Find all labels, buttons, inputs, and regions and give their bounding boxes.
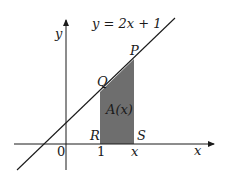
point-s-label: S <box>137 128 146 143</box>
diagram-canvas: y = 2x + 1 y x 0 1 x P Q R S A(x) <box>0 0 230 176</box>
point-r-label: R <box>89 128 100 143</box>
line-y-2x-plus-1 <box>17 18 175 170</box>
equation-label: y = 2x + 1 <box>91 16 162 31</box>
point-q-label: Q <box>97 74 108 89</box>
y-axis-label: y <box>54 26 63 41</box>
tick-x-label: x <box>131 144 139 159</box>
origin-label: 0 <box>57 144 65 159</box>
area-label: A(x) <box>105 102 133 117</box>
x-axis-label: x <box>194 143 202 158</box>
tick-one-label: 1 <box>97 144 105 159</box>
point-p-label: P <box>129 43 139 58</box>
